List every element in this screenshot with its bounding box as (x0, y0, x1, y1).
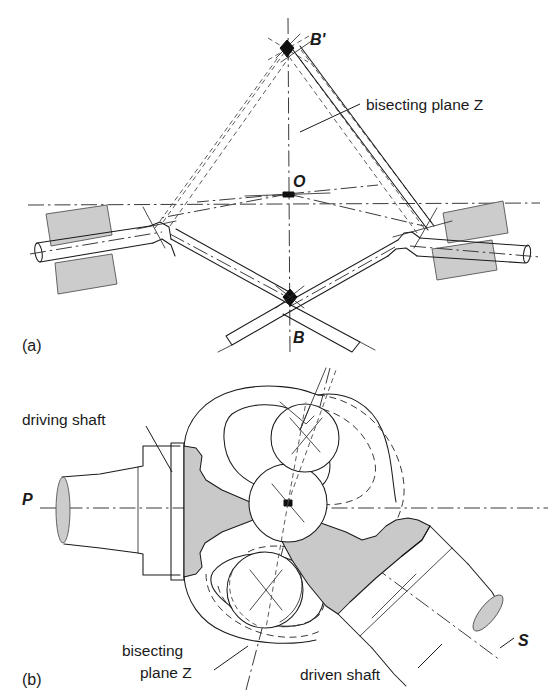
arm-tail-right-axis (360, 342, 375, 350)
label-bisecting-line1: bisecting (122, 642, 183, 659)
s-label-leader (500, 638, 514, 648)
right-bearing-block-lower (432, 240, 497, 280)
driving-shaft-flange (171, 443, 184, 580)
lower-right-arm-edge2 (291, 256, 388, 311)
lower-ball (227, 552, 303, 628)
driven-shaft-ring-1 (372, 574, 416, 618)
figure-root: B' O B bisecting plane Z (a) (0, 0, 554, 697)
construction-left-a (163, 53, 284, 222)
yoke-arm-upper-right-edge2 (300, 46, 434, 226)
construction-left-c (155, 56, 279, 228)
label-bisecting-plane-a: bisecting plane Z (366, 96, 483, 113)
construction-right-b (290, 58, 417, 233)
bisecting-plane-leader-b (214, 646, 248, 670)
o-node-marker (283, 192, 294, 197)
lower-left-arm-edge1 (171, 239, 289, 304)
driven-flange-upper-edge (430, 526, 468, 564)
lower-left-arm-axis (170, 234, 291, 299)
arm-tail-left-axis (218, 345, 232, 352)
caption-b: (b) (22, 671, 42, 688)
lower-left-arm-edge2 (176, 229, 293, 294)
left-knuckle-bottom (153, 239, 175, 256)
label-p: P (22, 491, 33, 508)
left-bearing-block-lower (55, 254, 117, 294)
horizontal-centerline (28, 203, 540, 205)
panel-a-diagram: B' O B bisecting plane Z (a) (0, 0, 554, 360)
arm-tail-left (226, 302, 291, 345)
driven-shaft-leader (418, 644, 442, 668)
driving-shaft-leader (146, 426, 172, 472)
o-to-right-joint (288, 194, 424, 226)
driving-shaft-bottom-profile (64, 544, 180, 575)
label-driven-shaft: driven shaft (300, 666, 381, 683)
driven-flange-lower-edge (338, 614, 372, 648)
right-bearing-block-upper (443, 201, 508, 243)
driving-shaft-top-profile (62, 446, 180, 477)
lower-right-arm-edge1 (288, 240, 398, 302)
label-o: O (293, 173, 306, 190)
driven-shaft-end-face (468, 591, 508, 636)
construction-left-b (170, 56, 290, 226)
o-to-left-joint (160, 194, 288, 218)
right-knuckle-bottom (388, 248, 417, 256)
label-driving-shaft: driving shaft (22, 411, 106, 428)
lower-right-arm-axis (289, 247, 395, 307)
left-joint-tick-a (137, 221, 176, 229)
panel-b-diagram: driving shaft bisecting plane Z driven s… (0, 360, 554, 697)
yoke-arm-upper-right-edge1 (293, 50, 428, 230)
right-shaft-end-cap (523, 245, 532, 264)
caption-a: (a) (22, 337, 42, 354)
label-s: S (518, 632, 529, 649)
label-bisecting-line2: plane Z (140, 664, 192, 681)
driving-shaft-end-face (56, 477, 70, 543)
o-radial-3 (197, 194, 288, 202)
label-b-prime: B' (310, 31, 327, 48)
label-b: B (293, 329, 305, 346)
